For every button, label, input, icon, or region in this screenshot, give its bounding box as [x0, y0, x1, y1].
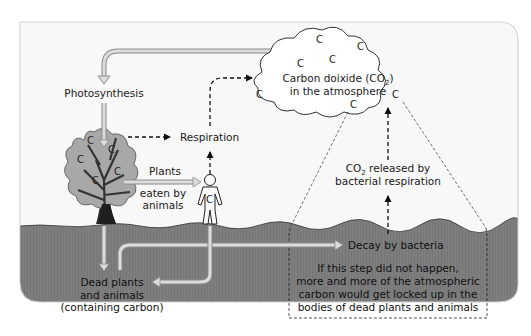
label-respiration: Respiration: [180, 131, 239, 143]
person-carbon-atom: C: [206, 194, 213, 205]
svg-text:C: C: [329, 54, 336, 65]
note-line4: bodies of dead plants and animals: [298, 301, 479, 313]
label-bacterial-respiration: bacterial respiration: [335, 175, 441, 187]
svg-text:C: C: [392, 89, 399, 100]
label-atmosphere-line2: in the atmosphere: [290, 85, 386, 97]
label-photosynthesis: Photosynthesis: [64, 87, 143, 99]
note-line3: carbon would get locked up in the: [299, 288, 478, 300]
label-dead-line2: and animals: [80, 289, 144, 301]
label-plants: Plants: [149, 165, 181, 177]
svg-text:C: C: [87, 135, 94, 146]
label-dead-line3: (containing carbon): [60, 301, 163, 313]
svg-text:C: C: [316, 34, 323, 45]
svg-text:C: C: [101, 204, 108, 215]
svg-text:C: C: [256, 89, 263, 100]
svg-text:C: C: [114, 166, 121, 177]
label-dead-line1: Dead plants: [80, 276, 143, 288]
label-decay-by-bacteria: Decay by bacteria: [348, 239, 444, 251]
svg-text:C: C: [357, 41, 364, 52]
svg-text:C: C: [92, 175, 99, 186]
note-line1: If this step did not happen,: [317, 262, 459, 274]
label-animals: animals: [142, 199, 183, 211]
label-eaten-by: eaten by: [140, 187, 186, 199]
svg-text:C: C: [108, 144, 115, 155]
svg-text:C: C: [350, 99, 357, 110]
svg-text:C: C: [297, 58, 304, 69]
svg-text:C: C: [77, 154, 84, 165]
note-line2: more and more of the atmospheric: [296, 275, 480, 287]
carbon-cycle-diagram: Photosynthesis C C C C C C Respiration P…: [0, 0, 531, 336]
